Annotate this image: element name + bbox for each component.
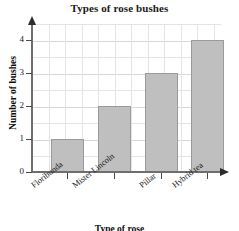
x-axis-title: Type of rose: [0, 224, 239, 231]
gridline-vertical: [49, 24, 50, 172]
plot-area: [32, 24, 221, 172]
x-tick-mark: [207, 173, 208, 179]
bar-hybrid-tea: [191, 40, 224, 172]
x-tick-mark: [114, 173, 115, 179]
bar-pillar: [145, 73, 178, 172]
gridline-vertical: [131, 24, 132, 172]
y-tick-label: 0: [10, 166, 24, 176]
y-axis-line: [31, 24, 33, 173]
y-axis-title: Number of bushes: [8, 43, 18, 143]
y-tick-mark: [26, 73, 32, 74]
y-tick-mark: [26, 40, 32, 41]
x-axis-arrow-icon: [220, 168, 229, 176]
x-tick-label-pillar: Pillar: [137, 171, 158, 190]
gridline-vertical: [181, 24, 182, 172]
x-tick-mark: [67, 173, 68, 179]
y-axis-arrow-icon: [28, 16, 36, 25]
x-tick-mark: [161, 173, 162, 179]
y-tick-mark: [26, 139, 32, 140]
bar-chart-figure: Types of rose bushes: [0, 0, 239, 231]
gridline-horizontal: [32, 24, 221, 25]
y-tick-mark: [26, 106, 32, 107]
y-tick-mark: [26, 172, 32, 173]
chart-title: Types of rose bushes: [0, 2, 239, 14]
